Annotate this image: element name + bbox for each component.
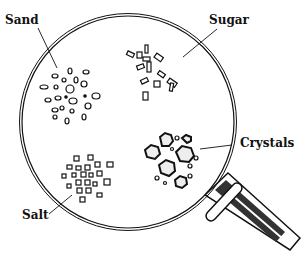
handle-icon xyxy=(204,173,300,250)
lens-icon xyxy=(20,14,237,231)
label-crystals: Crystals xyxy=(240,136,294,150)
label-salt: Salt xyxy=(22,208,49,222)
magnifier-illustration xyxy=(0,0,308,262)
label-sugar: Sugar xyxy=(209,13,249,27)
label-sand: Sand xyxy=(5,13,39,27)
